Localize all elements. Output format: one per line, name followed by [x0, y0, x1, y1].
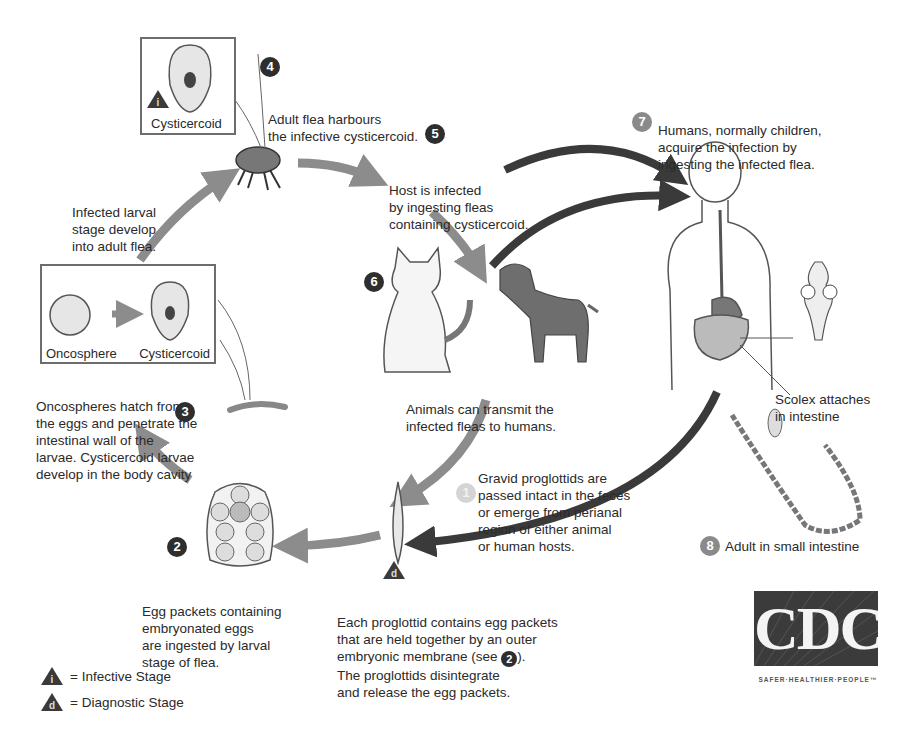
cdc-tagline: SAFER·HEALTHIER·PEOPLE™ — [748, 676, 888, 683]
cat-illustration — [384, 248, 470, 372]
stage-1-text: Gravid proglottids arepassed intact in t… — [478, 436, 630, 572]
stage-7-text: Humans, normally children,acquire the in… — [658, 88, 822, 190]
arrow-flea-to-host — [298, 163, 372, 178]
svg-text:d: d — [391, 568, 397, 579]
arrow-proglottid-to-eggs — [290, 535, 380, 546]
proglottid-text: Each proglottid contains egg packetsthat… — [337, 580, 558, 718]
flea-development-text: Infected larvalstage developinto adult f… — [72, 170, 156, 272]
diagnostic-stage-marker-icon: d — [382, 560, 406, 580]
see-stage-2-badge: 2 — [501, 651, 517, 667]
stage-5-text: Host is infectedby ingesting fleascontai… — [389, 148, 529, 250]
box-label-cysticercoid-left: Cysticercoid — [139, 346, 210, 361]
arrow-host-to-human — [505, 149, 675, 176]
svg-text:i: i — [157, 97, 160, 108]
stage-badge-5: 5 — [425, 124, 445, 144]
legend-diagnostic: d = Diagnostic Stage — [40, 692, 184, 712]
stage-badge-7: 7 — [632, 112, 652, 132]
stage-badge-2: 2 — [167, 537, 187, 557]
cdc-logo-text: CDC — [754, 593, 878, 664]
box-label-oncosphere: Oncosphere — [46, 346, 117, 361]
svg-text:i: i — [51, 674, 54, 685]
legend-infective: i = Infective Stage — [40, 666, 171, 686]
oncosphere-cysticercoid-box: Oncosphere Cysticercoid — [40, 264, 216, 364]
infective-legend-icon: i — [40, 666, 64, 686]
infective-stage-marker-icon: i — [146, 89, 170, 109]
stage-8-text: Adult in small intestine — [725, 538, 859, 555]
stage-badge-3: 3 — [175, 402, 195, 422]
proglottid-illustration — [393, 482, 403, 563]
stage-3-text: Oncospheres hatch fromthe eggs and penet… — [36, 364, 197, 500]
stage-badge-4: 4 — [260, 57, 280, 77]
diagnostic-legend-icon: d — [40, 692, 64, 712]
egg-packet-illustration — [207, 484, 273, 567]
scolex-text: Scolex attachesin intestine — [775, 357, 870, 442]
scolex-illustration — [801, 262, 837, 340]
stage-badge-1: 1 — [456, 483, 476, 503]
legend-diagnostic-label: = Diagnostic Stage — [70, 695, 184, 710]
box-label-cysticercoid: Cysticercoid — [151, 116, 222, 131]
stage-badge-8: 8 — [700, 536, 720, 556]
dog-illustration — [500, 264, 598, 362]
stage-badge-6: 6 — [364, 272, 384, 292]
cdc-logo: CDC — [754, 591, 878, 666]
flea-larva-illustration — [230, 404, 285, 410]
svg-text:d: d — [49, 700, 55, 711]
cysticercoid-infective-box: Cysticercoid — [140, 37, 236, 135]
legend-infective-label: = Infective Stage — [70, 669, 171, 684]
